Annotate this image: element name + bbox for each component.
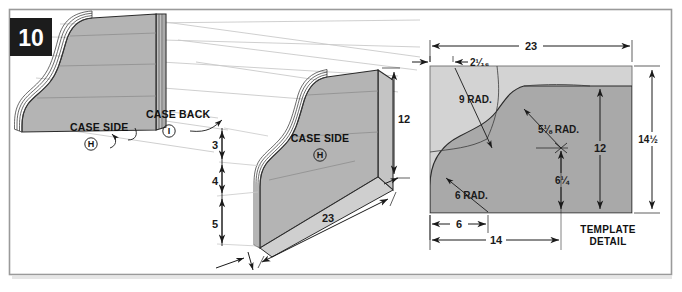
panel-case-side-label: CASE SIDE bbox=[291, 132, 349, 144]
template-detail-title-line-1: TEMPLATE bbox=[580, 224, 636, 235]
dim-chain-5-text: 5 bbox=[212, 218, 218, 230]
dim-chain-3-text: 3 bbox=[212, 139, 218, 151]
iso-case-back-key-letter: I bbox=[168, 126, 171, 136]
iso-case-side-key-letter: H bbox=[88, 139, 95, 149]
iso-case-back-label: CASE BACK bbox=[146, 108, 210, 120]
tmpl-dim-14-text: 14 bbox=[490, 234, 503, 246]
tmpl-dim-6-quarter-text: 6¼ bbox=[555, 175, 570, 186]
dim-chain-4-text: 4 bbox=[212, 175, 219, 187]
tmpl-dim-12-text: 12 bbox=[594, 142, 606, 154]
figure-root: CASE SIDE H CASE BACK I bbox=[0, 0, 682, 292]
side-panel-thickness-face bbox=[378, 70, 393, 190]
iso-case-side-label: CASE SIDE bbox=[70, 121, 128, 133]
tmpl-rad-9-text: 9 RAD. bbox=[459, 94, 492, 105]
tmpl-dim-2-1-16-text: 2¹⁄₁₆ bbox=[470, 57, 489, 68]
figure-drop-shadow bbox=[12, 276, 672, 279]
tmpl-dim-14-half-text: 14½ bbox=[638, 134, 657, 145]
tmpl-dim-6-text: 6 bbox=[456, 218, 462, 230]
panel-case-side-key-letter: H bbox=[317, 150, 324, 160]
tmpl-dim-23-text: 23 bbox=[525, 40, 537, 52]
tmpl-rad-6-text: 6 RAD. bbox=[455, 190, 488, 201]
template-detail-title-line-2: DETAIL bbox=[589, 236, 626, 247]
technical-drawing-canvas: CASE SIDE H CASE BACK I bbox=[0, 0, 682, 292]
step-number-text: 10 bbox=[18, 25, 44, 51]
dim-height-12-text: 12 bbox=[398, 113, 410, 125]
tmpl-rad-5-eighth-text: 5⅛ RAD. bbox=[538, 124, 579, 135]
dim-length-23-text: 23 bbox=[322, 212, 334, 224]
step-number-badge: 10 bbox=[10, 18, 52, 56]
